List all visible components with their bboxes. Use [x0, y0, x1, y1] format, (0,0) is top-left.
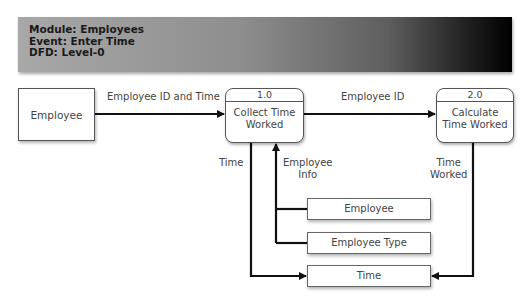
process-name-line2: Time Worked	[437, 119, 513, 131]
flow-label-line1: Employee	[283, 157, 333, 169]
data-store-employee[interactable]: Employee	[307, 198, 431, 220]
data-store-time[interactable]: Time	[307, 265, 431, 287]
flow-label-employee-id: Employee ID	[341, 91, 404, 103]
process-name-line2: Worked	[226, 119, 303, 131]
process-calculate-time-worked[interactable]: 2.0 Calculate Time Worked	[436, 88, 514, 143]
flow-label-time: Time	[219, 157, 243, 169]
store-label: Employee Type	[331, 237, 407, 248]
process-name-line1: Calculate	[437, 107, 513, 119]
store-label: Time	[357, 270, 381, 281]
flow-label-time-worked: Time Worked	[430, 157, 467, 181]
process-name: Calculate Time Worked	[437, 102, 513, 131]
flow-connectors	[0, 0, 529, 306]
flow-label-line1: Time	[430, 157, 467, 169]
process-collect-time-worked[interactable]: 1.0 Collect Time Worked	[225, 88, 304, 143]
flow-label-employee-id-and-time: Employee ID and Time	[107, 91, 220, 103]
store-label: Employee	[344, 203, 394, 214]
flow-label-line2: Worked	[430, 169, 467, 181]
process-name: Collect Time Worked	[226, 102, 303, 131]
flow-label-line2: Info	[283, 169, 333, 181]
process-id: 1.0	[226, 89, 303, 102]
entity-label: Employee	[30, 109, 82, 121]
process-id: 2.0	[437, 89, 513, 102]
data-store-employee-type[interactable]: Employee Type	[307, 232, 431, 254]
process-name-line1: Collect Time	[226, 107, 303, 119]
flow-label-employee-info: Employee Info	[283, 157, 333, 181]
external-entity-employee[interactable]: Employee	[18, 88, 95, 141]
